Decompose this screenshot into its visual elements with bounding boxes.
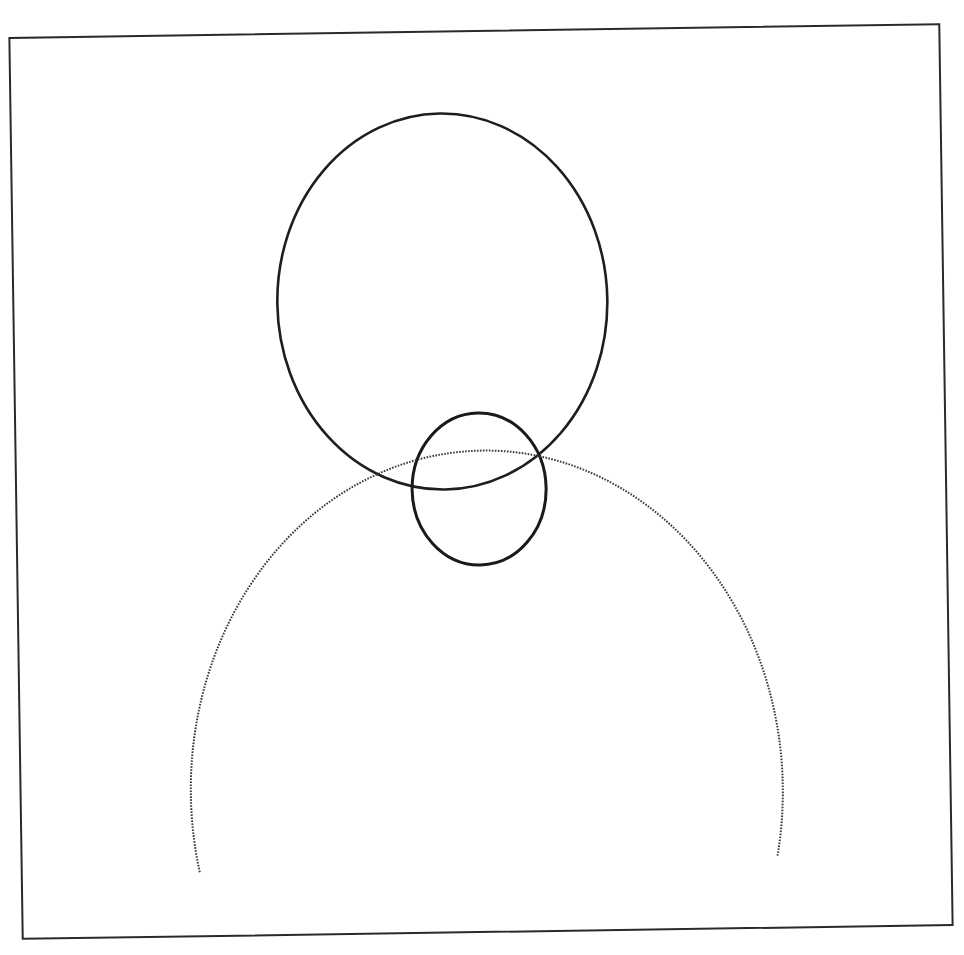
diagram-canvas <box>0 0 964 955</box>
large-dotted-arc <box>186 446 784 872</box>
upper-ellipse <box>275 111 611 492</box>
rotated-drawing-group <box>9 24 952 939</box>
frame-border <box>9 24 952 939</box>
